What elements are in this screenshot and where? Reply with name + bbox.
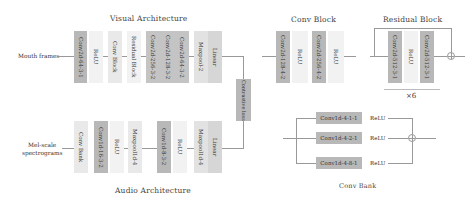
layer-label: Conv1d-4-2-1 bbox=[320, 135, 357, 141]
layer-relu: ReLU bbox=[173, 121, 187, 173]
layer-label: ReLU bbox=[408, 49, 414, 64]
layer-label: Linear bbox=[212, 48, 218, 66]
layer-residual-block: Residual Block bbox=[127, 31, 141, 83]
mouth-frames-input-label: Mouth frames bbox=[18, 53, 59, 59]
layer-maxpool1d-4: Maxpool1d-4 bbox=[194, 121, 208, 173]
relu-label: ReLU bbox=[370, 160, 385, 166]
connector bbox=[370, 56, 388, 57]
add-icon bbox=[408, 134, 416, 142]
connector bbox=[296, 163, 316, 164]
repeat-bracket bbox=[384, 89, 440, 90]
layer-label: Conv1d-16-3-2 bbox=[98, 127, 104, 168]
connector bbox=[62, 148, 74, 149]
relu-label: ReLU bbox=[370, 135, 385, 141]
layer-conv2d-128-3-2: Conv2d-128-3-2 bbox=[160, 31, 175, 83]
connector bbox=[58, 56, 74, 57]
branch-line bbox=[296, 118, 297, 164]
connector bbox=[416, 138, 436, 139]
layer-conv2d-64-3-2: Conv2d-64-3-2 bbox=[175, 31, 189, 83]
visual-architecture-title: Visual Architecture bbox=[110, 14, 187, 23]
input-line-1: Mel-scale bbox=[22, 141, 62, 149]
layer-conv1d-4-2-1: Conv1d-4-2-1 bbox=[316, 132, 362, 144]
layer-maxpool1d-4: Maxpool1d-4 bbox=[128, 121, 142, 173]
layer-conv1d-16-3-2: Conv1d-16-3-2 bbox=[94, 121, 108, 173]
layer-label: Residual Block bbox=[131, 36, 137, 77]
connector bbox=[222, 148, 244, 149]
residual-block-title: Residual Block bbox=[383, 15, 442, 24]
layer-conv1d-4-8-1: Conv1d-4-8-1 bbox=[316, 157, 362, 169]
add-icon bbox=[447, 52, 455, 60]
layer-relu: ReLU bbox=[292, 31, 308, 83]
input-line-2: spectrograms bbox=[22, 149, 62, 157]
connector bbox=[222, 56, 244, 57]
layer-label: ReLU bbox=[114, 139, 120, 154]
layer-label: Conv Bank bbox=[78, 132, 84, 162]
connector bbox=[142, 148, 157, 149]
layer-linear: Linear bbox=[208, 121, 222, 173]
repeat-count: ×6 bbox=[406, 92, 416, 100]
connector bbox=[388, 163, 413, 164]
conv-block-title: Conv Block bbox=[291, 15, 336, 24]
connector bbox=[388, 138, 408, 139]
layer-label: ReLU bbox=[333, 49, 339, 64]
conv-bank-title: Conv Bank bbox=[339, 182, 376, 190]
pool-linear-stack: Maxpool1d-4 Linear bbox=[194, 121, 222, 173]
layer-conv1d-4-1-1: Conv1d-4-1-1 bbox=[316, 112, 362, 124]
layer-conv2d-256-3-2: Conv2d-256-3-2 bbox=[146, 31, 160, 83]
connector bbox=[388, 118, 413, 119]
connector bbox=[187, 148, 194, 149]
layer-label: Conv2d-256-3-2 bbox=[150, 35, 156, 79]
layer-conv1d-8-3-2: Conv1d-8-3-2 bbox=[157, 121, 171, 173]
layer-label: Linear bbox=[212, 138, 218, 156]
layer-label: Conv2d-64-3-1 bbox=[78, 37, 84, 78]
layer-label: Conv1d-4-1-1 bbox=[320, 115, 357, 121]
relu-label: ReLU bbox=[370, 115, 385, 121]
layer-label: Conv2d-512-3-1 bbox=[424, 35, 430, 79]
connector bbox=[296, 118, 316, 119]
layer-conv-bank: Conv Bank bbox=[74, 121, 88, 173]
layer-relu: ReLU bbox=[110, 121, 124, 173]
layer-label: Conv2d-256-4-2 bbox=[316, 35, 322, 79]
layer-label: ReLU bbox=[93, 49, 99, 64]
loss-label: Contrastive loss bbox=[241, 80, 247, 121]
layer-label: ReLU bbox=[297, 49, 303, 64]
skip-connection bbox=[451, 28, 452, 53]
skip-connection bbox=[374, 28, 451, 29]
mel-spectrogram-input-label: Mel-scale spectrograms bbox=[22, 141, 62, 157]
layer-conv2d-256-4-2: Conv2d-256-4-2 bbox=[312, 31, 326, 83]
connector bbox=[243, 56, 244, 79]
layer-label: Maxpool-2 bbox=[198, 42, 204, 71]
layer-conv-block: Conv Block bbox=[108, 31, 122, 83]
connector bbox=[434, 56, 447, 57]
layer-label: Conv2d-512-3-1 bbox=[392, 35, 398, 79]
skip-connection bbox=[374, 28, 375, 57]
layer-conv2d-512-3-1: Conv2d-512-3-1 bbox=[420, 31, 434, 83]
layer-conv2d-512-3-1: Conv2d-512-3-1 bbox=[388, 31, 402, 83]
layer-relu: ReLU bbox=[89, 31, 103, 83]
layer-linear: Linear bbox=[208, 31, 222, 83]
contrastive-loss: Contrastive loss bbox=[236, 79, 251, 121]
conv2d-stack: Conv2d-256-3-2 Conv2d-128-3-2 Conv2d-64-… bbox=[146, 31, 189, 83]
layer-label: Conv1d-8-3-2 bbox=[161, 128, 167, 165]
layer-relu: ReLU bbox=[328, 31, 344, 83]
layer-relu: ReLU bbox=[404, 31, 418, 83]
layer-conv2d-128-4-2: Conv2d-128-4-2 bbox=[276, 31, 290, 83]
layer-label: Conv2d-128-4-2 bbox=[280, 35, 286, 79]
connector bbox=[243, 121, 244, 149]
layer-conv2d-64-3-1: Conv2d-64-3-1 bbox=[74, 31, 87, 83]
connector bbox=[262, 56, 276, 57]
layer-label: Conv Block bbox=[112, 41, 118, 72]
layer-label: Conv2d-128-3-2 bbox=[165, 35, 171, 79]
layer-maxpool-2: Maxpool-2 bbox=[194, 31, 208, 83]
connector bbox=[455, 56, 465, 57]
layer-label: Maxpool1d-4 bbox=[132, 129, 138, 165]
connector bbox=[283, 138, 316, 139]
layer-label: Maxpool1d-4 bbox=[198, 129, 204, 165]
pool-linear-stack: Maxpool-2 Linear bbox=[194, 31, 222, 83]
layer-label: Conv1d-4-8-1 bbox=[320, 160, 357, 166]
connector bbox=[344, 56, 356, 57]
layer-label: Conv2d-64-3-2 bbox=[179, 37, 185, 78]
audio-architecture-title: Audio Architecture bbox=[115, 186, 191, 195]
layer-label: ReLU bbox=[177, 139, 183, 154]
